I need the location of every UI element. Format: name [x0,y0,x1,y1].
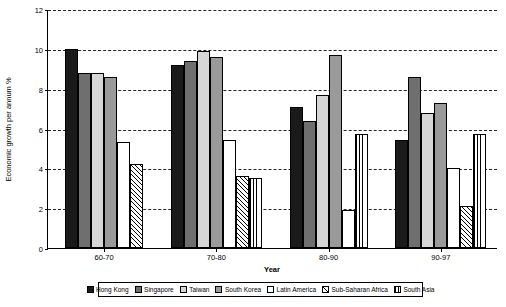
legend-swatch [135,286,142,293]
bar [342,210,355,248]
bar [171,65,184,248]
legend-label: Taiwan [189,286,209,293]
legend-label: South Asia [403,286,434,293]
bar [316,95,329,248]
legend-item: South Asia [394,286,435,293]
bar [197,51,210,248]
legend-item: Singapore [135,286,174,293]
bar [104,77,117,248]
bar [447,168,460,248]
y-axis-tick-label: 0 [21,245,43,254]
bar [236,176,249,248]
legend-label: Singapore [144,286,174,293]
legend-swatch [394,286,401,293]
plot-area: 60-7070-8080-9090-97 [47,10,497,249]
bar [355,134,368,248]
bar [210,57,223,248]
legend-item: Sub-Saharan Africa [322,286,388,293]
chart-legend: Hong KongSingaporeTaiwanSouth KoreaLatin… [98,282,423,297]
x-axis-label: Year [47,265,497,274]
y-axis-tick-label: 10 [21,45,43,54]
bar [130,164,143,248]
bar [395,140,408,248]
legend-swatch [267,286,274,293]
y-axis-tick-label: 12 [21,6,43,15]
bar [434,103,447,248]
x-axis-tick-mark [216,248,217,252]
bar-group: 60-70 [48,10,160,248]
bar [65,49,78,248]
legend-label: Sub-Saharan Africa [332,286,388,293]
chart-plot-wrapper: Economic growth per annum % 60-7070-8080… [0,0,506,307]
bar-group: 80-90 [273,10,385,248]
bar [329,55,342,248]
y-axis-tick-label: 2 [21,205,43,214]
legend-label: South Korea [225,286,261,293]
legend-item: South Korea [215,286,261,293]
y-axis-tick-label: 4 [21,165,43,174]
legend-item: Taiwan [180,286,210,293]
y-axis-tick-label: 6 [21,125,43,134]
bar-group: 70-80 [160,10,272,248]
x-axis-tick-label: 80-90 [273,253,385,262]
bar [91,73,104,248]
legend-item: Latin America [267,286,316,293]
x-axis-tick-mark [441,248,442,252]
bar [117,142,130,248]
legend-swatch [322,286,329,293]
bar [473,134,486,248]
legend-item: Hong Kong [87,286,129,293]
bar [290,107,303,248]
bar [303,121,316,248]
bar [78,73,91,248]
x-axis-tick-mark [329,248,330,252]
y-axis-label-text: Economic growth per annum % [4,77,13,181]
bar [184,61,197,248]
y-axis-label: Economic growth per annum % [2,10,14,249]
legend-swatch [180,286,187,293]
bar [249,178,262,248]
legend-swatch [87,286,94,293]
bar-groups: 60-7070-8080-9090-97 [48,10,497,248]
legend-swatch [215,286,222,293]
bar-group: 90-97 [385,10,497,248]
x-axis-tick-mark [104,248,105,252]
x-axis-tick-label: 90-97 [385,253,497,262]
bar [421,113,434,248]
chart-root: Economic growth per annum % 60-7070-8080… [0,0,506,307]
x-axis-tick-label: 70-80 [160,253,272,262]
bar [460,206,473,248]
legend-label: Latin America [277,286,316,293]
y-axis-tick-mark [45,249,48,250]
bar [223,140,236,248]
bar [408,77,421,248]
legend-label: Hong Kong [96,286,129,293]
y-axis-tick-label: 8 [21,85,43,94]
x-axis-tick-label: 60-70 [48,253,160,262]
